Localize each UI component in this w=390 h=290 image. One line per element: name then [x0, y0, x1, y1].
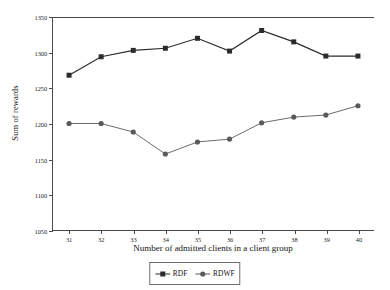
square-marker-icon [195, 36, 200, 41]
x-axis-tick-label: 40 [356, 236, 362, 243]
x-axis-tick [295, 230, 296, 234]
y-axis-title: Sum of rewards [10, 63, 20, 163]
x-axis-tick [101, 230, 102, 234]
x-axis-tick [134, 230, 135, 234]
y-axis-tick-label: 1200 [35, 121, 47, 128]
x-axis-tick [359, 230, 360, 234]
circle-marker-icon [291, 115, 296, 120]
square-marker-icon [355, 54, 360, 59]
x-axis-tick [262, 230, 263, 234]
y-axis-tick-label: 1050 [35, 228, 47, 235]
square-marker-icon [291, 39, 296, 44]
chart-legend: RDFRDWF [149, 262, 240, 285]
y-axis-tick-label: 1250 [35, 85, 47, 92]
x-axis-tick-label: 36 [227, 236, 233, 243]
circle-marker-icon [99, 121, 104, 126]
x-axis-tick-label: 34 [162, 236, 168, 243]
square-marker-icon [155, 264, 170, 282]
square-marker-icon [99, 54, 104, 59]
x-axis-tick [166, 230, 167, 234]
x-axis-title: Number of admitted clients in a client g… [52, 243, 374, 253]
circle-marker-icon [355, 103, 360, 108]
series-line-rdwf [69, 106, 358, 154]
square-marker-icon [259, 28, 264, 33]
circle-marker-icon [163, 151, 168, 156]
x-axis-tick-label: 37 [259, 236, 265, 243]
square-marker-icon [323, 54, 328, 59]
circle-marker-icon [323, 112, 328, 117]
x-axis-tick [198, 230, 199, 234]
legend-label: RDWF [213, 269, 235, 278]
legend-label: RDF [173, 269, 188, 278]
y-axis-tick [49, 231, 53, 232]
series-line-rdf [69, 30, 358, 75]
y-axis-tick [49, 53, 53, 54]
x-axis-tick-label: 31 [66, 236, 72, 243]
y-axis-tick [49, 160, 53, 161]
legend-item-rdwf[interactable]: RDWF [195, 264, 234, 282]
y-axis-tick-label: 1150 [35, 156, 47, 163]
plot-area: 1050110011501200125013001350313233343536… [52, 17, 374, 231]
y-axis-tick [49, 124, 53, 125]
circle-marker-icon [66, 121, 71, 126]
chart-figure: Sum of rewards 1050110011501200125013001… [0, 0, 390, 290]
square-marker-icon [163, 46, 168, 51]
x-axis-tick [69, 230, 70, 234]
square-marker-icon [131, 48, 136, 53]
x-axis-tick-label: 38 [291, 236, 297, 243]
y-axis-tick-label: 1350 [35, 14, 47, 21]
circle-marker-icon [195, 139, 200, 144]
square-marker-icon [227, 49, 232, 54]
y-axis-tick-label: 1300 [35, 49, 47, 56]
x-axis-tick-label: 32 [98, 236, 104, 243]
x-axis-tick-label: 39 [323, 236, 329, 243]
legend-item-rdf[interactable]: RDF [155, 264, 187, 282]
y-axis-tick [49, 17, 53, 18]
y-axis-tick-label: 1100 [35, 192, 47, 199]
x-axis-tick [230, 230, 231, 234]
y-axis-tick [49, 88, 53, 89]
circle-marker-icon [195, 264, 210, 282]
y-axis-tick [49, 195, 53, 196]
x-axis-tick-label: 33 [130, 236, 136, 243]
x-axis-tick [327, 230, 328, 234]
x-axis-tick-label: 35 [195, 236, 201, 243]
circle-marker-icon [131, 129, 136, 134]
circle-marker-icon [227, 137, 232, 142]
square-marker-icon [67, 73, 72, 78]
circle-marker-icon [259, 120, 264, 125]
series-layer [53, 17, 374, 230]
